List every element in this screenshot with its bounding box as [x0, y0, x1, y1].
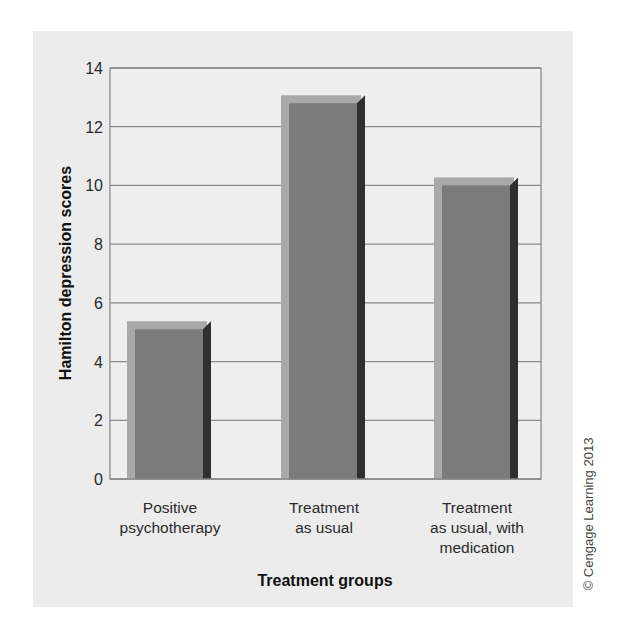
y-tick-label: 14 — [85, 60, 103, 77]
x-axis-categories: PositivepsychotherapyTreatmentas usualTr… — [120, 499, 524, 556]
x-axis-title: Treatment groups — [257, 572, 392, 589]
x-category-label: Positivepsychotherapy — [120, 499, 221, 536]
y-tick-label: 12 — [85, 119, 103, 136]
y-tick-label: 6 — [94, 295, 103, 312]
y-tick-label: 4 — [94, 354, 103, 371]
y-tick-label: 0 — [94, 471, 103, 488]
bar — [281, 95, 365, 479]
bar — [127, 321, 211, 479]
y-tick-label: 10 — [85, 177, 103, 194]
y-axis-title: Hamilton depression scores — [57, 166, 74, 380]
x-category-label: Treatmentas usual — [289, 499, 360, 536]
y-axis-ticks: 02468101214 — [85, 60, 103, 488]
y-tick-label: 8 — [94, 236, 103, 253]
bar — [434, 177, 518, 479]
y-tick-label: 2 — [94, 412, 103, 429]
x-category-label: Treatmentas usual, withmedication — [430, 499, 524, 556]
copyright-credit: © Cengage Learning 2013 — [581, 438, 596, 591]
bar-chart: 02468101214 PositivepsychotherapyTreatme… — [0, 0, 622, 638]
